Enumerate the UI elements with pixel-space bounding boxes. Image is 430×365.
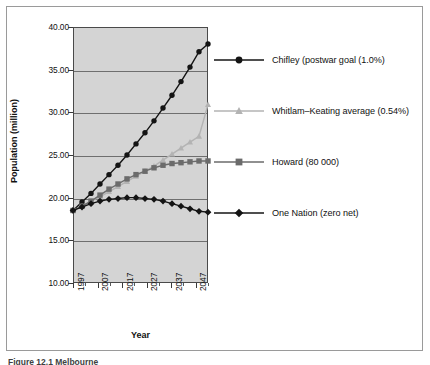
legend-label: Whitlam–Keating average (0.54%) bbox=[272, 105, 409, 117]
data-point-marker bbox=[142, 195, 149, 202]
data-point-marker bbox=[151, 165, 156, 170]
series-line bbox=[73, 44, 208, 210]
data-point-marker bbox=[160, 157, 166, 163]
y-axis-tick-label: 25.00 bbox=[26, 151, 69, 159]
x-axis-tick-mark bbox=[73, 283, 74, 288]
legend-label: One Nation (zero net) bbox=[272, 207, 358, 219]
chart-stage: 40.0035.0030.0025.0020.0015.0010.00 Popu… bbox=[0, 0, 430, 365]
x-axis-tick-mark bbox=[196, 283, 197, 288]
x-axis-tick-mark bbox=[147, 283, 148, 288]
data-point-marker bbox=[97, 181, 102, 186]
data-point-marker bbox=[187, 139, 193, 145]
data-point-marker bbox=[196, 208, 203, 215]
data-point-marker bbox=[124, 152, 129, 157]
data-point-marker bbox=[106, 186, 111, 191]
data-point-marker bbox=[169, 151, 175, 157]
data-point-marker bbox=[106, 196, 113, 203]
data-point-marker bbox=[115, 195, 122, 202]
y-axis-title: Population (million) bbox=[9, 61, 19, 221]
data-point-marker bbox=[106, 172, 111, 177]
data-point-marker bbox=[178, 145, 184, 151]
series-layer bbox=[73, 27, 208, 283]
x-axis-minor-tick bbox=[159, 283, 160, 286]
data-point-marker bbox=[142, 130, 147, 135]
y-axis-tick-label: 10.00 bbox=[26, 279, 69, 287]
x-axis-title: Year bbox=[73, 330, 208, 340]
legend-label: Howard (80 000) bbox=[272, 156, 339, 168]
data-point-marker bbox=[187, 159, 192, 164]
legend-marker-square-icon bbox=[212, 155, 266, 169]
data-point-marker bbox=[169, 93, 174, 98]
data-point-marker bbox=[187, 205, 194, 212]
y-axis-tick-label: 20.00 bbox=[26, 194, 69, 202]
data-point-marker bbox=[88, 191, 93, 196]
y-axis-tick-label: 30.00 bbox=[26, 108, 69, 116]
data-point-marker bbox=[205, 41, 210, 46]
series-2 bbox=[70, 102, 211, 213]
data-point-marker bbox=[115, 163, 120, 168]
y-axis-tick-label: 40.00 bbox=[26, 23, 69, 31]
x-axis-minor-tick bbox=[208, 283, 209, 286]
data-point-marker bbox=[133, 172, 138, 177]
x-axis-tick-mark bbox=[122, 283, 123, 288]
data-point-marker bbox=[97, 192, 102, 197]
data-point-marker bbox=[169, 200, 176, 207]
chart-legend: Chifley (postwar goal (1.0%)Whitlam–Keat… bbox=[212, 0, 430, 365]
data-point-marker bbox=[178, 203, 185, 210]
data-point-marker bbox=[169, 161, 174, 166]
data-point-marker bbox=[196, 133, 202, 139]
data-point-marker bbox=[205, 158, 210, 163]
data-point-marker bbox=[133, 141, 138, 146]
legend-marker-triangle-icon bbox=[212, 104, 266, 118]
data-point-marker bbox=[160, 105, 165, 110]
x-axis-tick-mark bbox=[98, 283, 99, 288]
y-axis-tick-label: 35.00 bbox=[26, 66, 69, 74]
data-point-marker bbox=[142, 169, 147, 174]
legend-label: Chifley (postwar goal (1.0%) bbox=[272, 54, 385, 66]
data-point-marker bbox=[160, 198, 167, 205]
y-axis-labels: 40.0035.0030.0025.0020.0015.0010.00 bbox=[26, 0, 69, 365]
x-axis-tick-mark bbox=[171, 283, 172, 288]
data-point-marker bbox=[124, 176, 129, 181]
data-point-marker bbox=[160, 163, 165, 168]
data-point-marker bbox=[133, 194, 140, 201]
data-point-marker bbox=[124, 194, 131, 201]
data-point-marker bbox=[187, 64, 192, 69]
y-axis-tick-label: 15.00 bbox=[26, 236, 69, 244]
figure-container: 40.0035.0030.0025.0020.0015.0010.00 Popu… bbox=[0, 0, 430, 365]
series-4 bbox=[70, 194, 212, 215]
data-point-marker bbox=[205, 102, 211, 108]
data-point-marker bbox=[205, 209, 212, 216]
data-point-marker bbox=[196, 49, 201, 54]
legend-marker-diamond-icon bbox=[212, 206, 266, 220]
data-point-marker bbox=[178, 79, 183, 84]
series-1 bbox=[70, 41, 210, 213]
data-point-marker bbox=[151, 118, 156, 123]
data-point-marker bbox=[151, 196, 158, 203]
data-point-marker bbox=[178, 160, 183, 165]
figure-caption: Figure 12.1 Melbourne bbox=[8, 357, 422, 365]
data-point-marker bbox=[115, 181, 120, 186]
legend-marker-circle-icon bbox=[212, 53, 266, 67]
data-point-marker bbox=[196, 158, 201, 163]
